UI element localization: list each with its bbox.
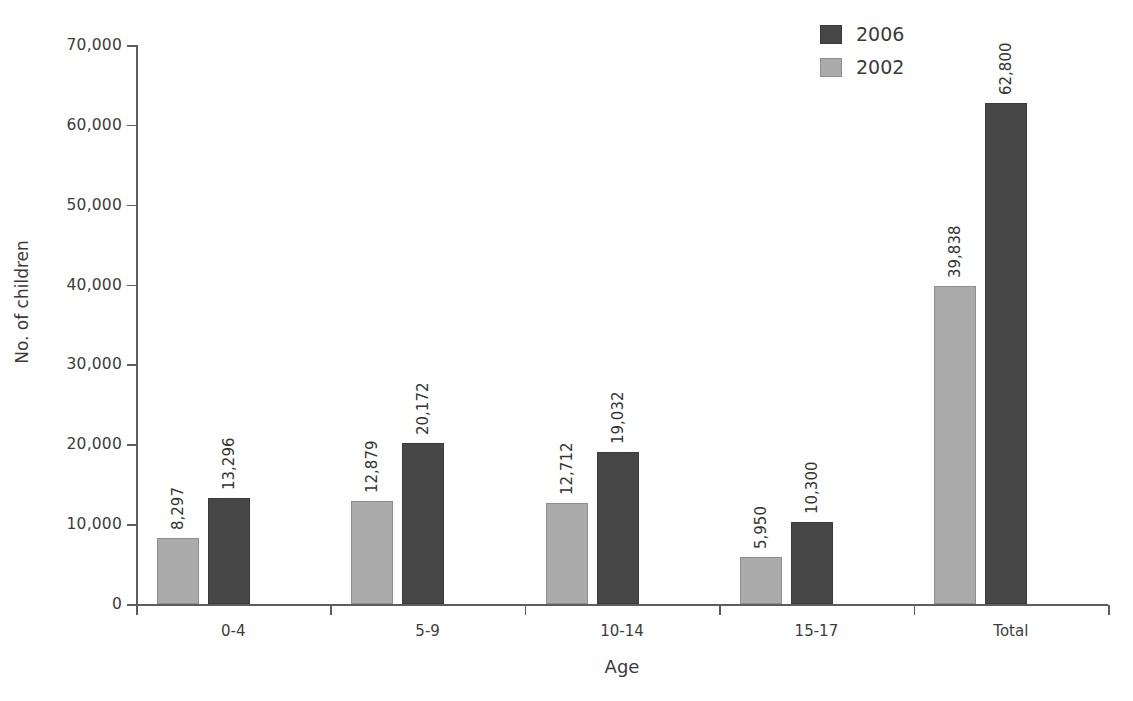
y-axis-tick <box>127 205 136 207</box>
x-axis-tick <box>525 605 527 615</box>
x-axis-category-label: 15-17 <box>795 622 839 640</box>
bar-value-label: 19,032 <box>609 392 627 445</box>
x-axis-title: Age <box>605 656 640 677</box>
legend-item-2006[interactable]: 2006 <box>820 22 904 46</box>
chart-legend: 20062002 <box>820 22 904 88</box>
legend-item-2002[interactable]: 2002 <box>820 55 904 79</box>
y-axis-tick-label: 40,000 <box>67 276 122 294</box>
x-axis-category-label: 10-14 <box>600 622 644 640</box>
y-axis-tick-label: 60,000 <box>67 116 122 134</box>
bar-value-label: 13,296 <box>220 437 238 490</box>
bar-15-17-2002[interactable]: 5,950 <box>740 557 782 605</box>
bar-Total-2002[interactable]: 39,838 <box>934 286 976 604</box>
y-axis-tick <box>127 604 136 606</box>
bar-value-label: 12,712 <box>558 442 576 495</box>
bar-value-label: 10,300 <box>803 461 821 514</box>
legend-swatch-icon <box>820 25 842 44</box>
bar-10-14-2006[interactable]: 19,032 <box>597 452 639 604</box>
y-axis-tick-label: 30,000 <box>67 355 122 373</box>
legend-label: 2006 <box>856 23 904 45</box>
bar-15-17-2006[interactable]: 10,300 <box>791 522 833 604</box>
x-axis-category-label: Total <box>993 622 1028 640</box>
bar-value-label: 62,800 <box>997 42 1015 95</box>
x-axis-tick <box>914 605 916 615</box>
bar-0-4-2006[interactable]: 13,296 <box>208 498 250 604</box>
legend-swatch-icon <box>820 58 842 77</box>
bar-0-4-2002[interactable]: 8,297 <box>157 538 199 604</box>
y-axis-tick-label: 10,000 <box>67 515 122 533</box>
y-axis-tick <box>127 285 136 287</box>
x-axis-category-label: 5-9 <box>415 622 440 640</box>
bar-5-9-2002[interactable]: 12,879 <box>351 501 393 604</box>
bar-value-label: 39,838 <box>946 225 964 278</box>
x-axis-tick <box>136 605 138 615</box>
y-axis-tick <box>127 444 136 446</box>
x-axis-category-label: 0-4 <box>221 622 246 640</box>
y-axis-tick <box>127 524 136 526</box>
y-axis-title: No. of children <box>12 240 32 364</box>
x-axis-line <box>136 604 1108 606</box>
y-axis-tick-label: 70,000 <box>67 36 122 54</box>
bar-10-14-2002[interactable]: 12,712 <box>546 503 588 605</box>
bar-Total-2006[interactable]: 62,800 <box>985 103 1027 605</box>
bar-value-label: 5,950 <box>752 506 770 549</box>
x-axis-tick <box>1108 605 1110 615</box>
bar-chart: No. of children 010,00020,00030,00040,00… <box>0 0 1133 701</box>
bar-value-label: 20,172 <box>414 382 432 435</box>
bar-5-9-2006[interactable]: 20,172 <box>402 443 444 604</box>
plot-area: 8,29713,29612,87920,17212,71219,0325,950… <box>136 45 1108 604</box>
x-axis-tick <box>330 605 332 615</box>
legend-label: 2002 <box>856 56 904 78</box>
y-axis-tick <box>127 364 136 366</box>
bar-value-label: 12,879 <box>363 441 381 494</box>
y-axis-tick-label: 0 <box>112 595 122 613</box>
y-axis-tick <box>127 125 136 127</box>
bar-value-label: 8,297 <box>169 487 187 530</box>
y-axis-tick-label: 20,000 <box>67 435 122 453</box>
y-axis-tick-label: 50,000 <box>67 196 122 214</box>
y-axis-tick <box>127 45 136 47</box>
x-axis-tick <box>719 605 721 615</box>
